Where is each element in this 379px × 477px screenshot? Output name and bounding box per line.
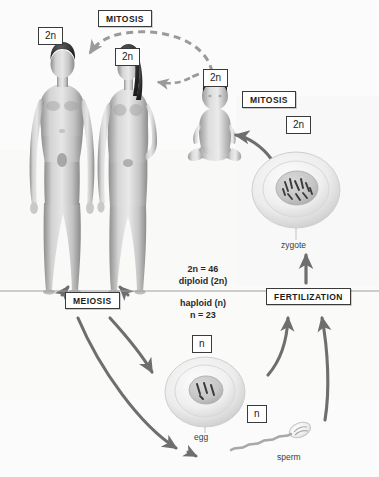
haploid-name-text: haploid (n) <box>163 298 243 308</box>
diploid-count-text: 2n = 46 <box>168 264 238 274</box>
ploidy-box-male-adult: 2n <box>38 27 63 45</box>
ploidy-box-egg: n <box>192 335 212 353</box>
meiosis-label: MEIOSIS <box>65 292 120 309</box>
fertilization-label: FERTILIZATION <box>266 288 351 305</box>
diploid-name-text: diploid (2n) <box>163 276 243 286</box>
ploidy-box-child: 2n <box>203 69 228 87</box>
egg-cell <box>165 357 245 427</box>
diagram-artwork <box>0 0 379 477</box>
life-cycle-diagram: MITOSIS MITOSIS MEIOSIS FERTILIZATION 2n… <box>0 0 379 477</box>
ploidy-box-sperm: n <box>247 405 267 423</box>
haploid-count-text: n = 23 <box>168 310 238 320</box>
egg-cell-label: egg <box>194 432 208 442</box>
sperm-cell-label: sperm <box>277 452 301 462</box>
mitosis-top-label: MITOSIS <box>98 10 152 27</box>
mitosis-right-label: MITOSIS <box>242 91 296 108</box>
ploidy-box-zygote: 2n <box>286 116 311 134</box>
zygote-cell-label: zygote <box>281 240 306 250</box>
ploidy-box-female-adult: 2n <box>115 48 140 66</box>
